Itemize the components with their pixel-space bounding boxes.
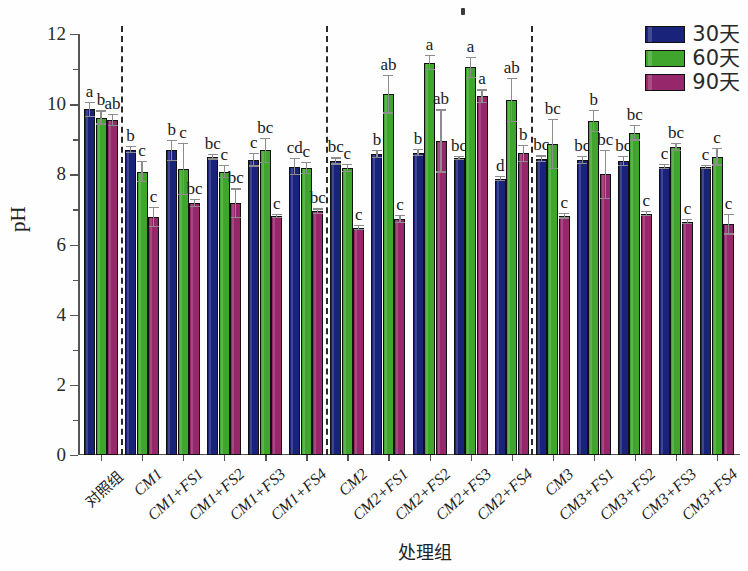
bar-group: babc bbox=[371, 34, 405, 455]
bar-30天-CM2+FS3[interactable] bbox=[454, 158, 465, 455]
bar-30天-CM2+FS2[interactable] bbox=[413, 153, 424, 455]
y-tick-0 bbox=[70, 455, 78, 456]
bar-60天-对照组[interactable] bbox=[96, 118, 107, 456]
bar-60天-CM3+FS4[interactable] bbox=[712, 157, 723, 455]
bar-60天-CM1+FS1[interactable] bbox=[178, 169, 189, 455]
bar-30天-CM1+FS2[interactable] bbox=[207, 157, 218, 455]
bar-60天-CM2+FS4[interactable] bbox=[506, 100, 517, 455]
bar-group: bcbc bbox=[166, 34, 200, 455]
bar-group: cbcc bbox=[248, 34, 282, 455]
bar-60天-CM3+FS2[interactable] bbox=[629, 133, 640, 455]
bar-30天-CM1+FS3[interactable] bbox=[248, 160, 259, 455]
error-bar bbox=[112, 114, 113, 127]
error-bar bbox=[399, 215, 400, 223]
bar-60天-CM2+FS2[interactable] bbox=[424, 63, 435, 455]
bar-60天-CM3+FS1[interactable] bbox=[588, 121, 599, 455]
error-bar bbox=[130, 146, 131, 153]
error-cap-top bbox=[383, 75, 393, 76]
bar-30天-CM3+FS2[interactable] bbox=[618, 161, 629, 455]
bar-90天-CM3+FS4[interactable] bbox=[723, 224, 734, 455]
bar-90天-CM3+FS2[interactable] bbox=[641, 214, 652, 455]
error-cap-top bbox=[208, 154, 218, 155]
legend-label: 90天 bbox=[692, 72, 740, 93]
bar-60天-CM2+FS3[interactable] bbox=[465, 67, 476, 455]
error-bar bbox=[705, 165, 706, 169]
error-cap-top bbox=[342, 164, 352, 165]
significance-label: c bbox=[661, 145, 669, 162]
bar-90天-CM1+FS3[interactable] bbox=[271, 216, 282, 455]
bar-30天-对照组[interactable] bbox=[84, 109, 95, 455]
bar-30天-CM1[interactable] bbox=[125, 150, 136, 455]
legend-item-60天[interactable]: 60天 bbox=[645, 48, 740, 69]
significance-label: bc bbox=[187, 180, 203, 197]
error-cap-top bbox=[518, 145, 528, 146]
error-cap-bottom bbox=[600, 198, 610, 199]
error-bar bbox=[646, 211, 647, 217]
bar-90天-CM3+FS3[interactable] bbox=[682, 222, 693, 455]
bar-60天-CM1+FS3[interactable] bbox=[260, 150, 271, 455]
bar-60天-CM2+FS1[interactable] bbox=[383, 94, 394, 455]
bar-30天-CM3+FS3[interactable] bbox=[659, 167, 670, 455]
significance-label: bc bbox=[205, 135, 221, 152]
error-cap-bottom bbox=[383, 112, 393, 113]
bar-60天-CM3[interactable] bbox=[547, 144, 558, 455]
significance-label: c bbox=[713, 129, 721, 146]
bar-90天-CM2+FS2[interactable] bbox=[436, 141, 447, 455]
error-cap-top bbox=[548, 119, 558, 120]
significance-label: a bbox=[467, 38, 475, 55]
bar-90天-CM1[interactable] bbox=[148, 217, 159, 455]
x-tick bbox=[430, 455, 431, 461]
error-bar bbox=[440, 109, 441, 172]
bar-60天-CM1+FS2[interactable] bbox=[219, 172, 230, 455]
bar-90天-CM1+FS4[interactable] bbox=[312, 211, 323, 455]
y-tick-label-12: 12 bbox=[32, 24, 66, 43]
bar-60天-CM1[interactable] bbox=[137, 172, 148, 455]
bar-30天-CM2[interactable] bbox=[330, 161, 341, 455]
bar-30天-CM1+FS4[interactable] bbox=[289, 167, 300, 455]
bar-90天-对照组[interactable] bbox=[107, 120, 118, 455]
x-tick bbox=[512, 455, 513, 461]
bar-60天-CM3+FS3[interactable] bbox=[670, 147, 681, 455]
error-cap-top bbox=[372, 150, 382, 151]
bar-30天-CM2+FS4[interactable] bbox=[495, 179, 506, 455]
significance-label: c bbox=[702, 146, 710, 163]
bar-90天-CM3[interactable] bbox=[559, 216, 570, 455]
bar-90天-CM2+FS4[interactable] bbox=[518, 153, 529, 455]
error-cap-bottom bbox=[313, 213, 323, 214]
error-cap-top bbox=[577, 156, 587, 157]
bar-90天-CM2+FS3[interactable] bbox=[477, 96, 488, 455]
bar-90天-CM3+FS1[interactable] bbox=[600, 174, 611, 455]
bar-90天-CM1+FS1[interactable] bbox=[189, 203, 200, 455]
bar-group: abab bbox=[84, 34, 118, 455]
error-cap-bottom bbox=[231, 217, 241, 218]
significance-label: b bbox=[126, 127, 135, 144]
error-cap-top bbox=[600, 150, 610, 151]
error-bar bbox=[358, 225, 359, 231]
bar-30天-CM2+FS1[interactable] bbox=[371, 154, 382, 455]
error-cap-bottom bbox=[659, 168, 669, 169]
bar-90天-CM2[interactable] bbox=[353, 228, 364, 455]
x-axis-title: 处理组 bbox=[398, 538, 452, 564]
error-cap-bottom bbox=[354, 229, 364, 230]
error-bar bbox=[100, 110, 101, 124]
significance-label: ab bbox=[104, 95, 120, 112]
error-cap-bottom bbox=[671, 150, 681, 151]
y-tick-label-2: 2 bbox=[32, 375, 66, 394]
bar-30天-CM3[interactable] bbox=[536, 159, 547, 455]
bar-60天-CM2[interactable] bbox=[342, 168, 353, 455]
error-cap-top bbox=[701, 165, 711, 166]
legend-item-90天[interactable]: 90天 bbox=[645, 72, 740, 93]
error-bar bbox=[235, 188, 236, 217]
error-cap-bottom bbox=[413, 155, 423, 156]
y-tick-label-10: 10 bbox=[32, 94, 66, 113]
error-bar bbox=[541, 155, 542, 162]
bar-90天-CM1+FS2[interactable] bbox=[230, 203, 241, 455]
bar-60天-CM1+FS4[interactable] bbox=[301, 168, 312, 455]
bar-30天-CM1+FS1[interactable] bbox=[166, 150, 177, 455]
error-bar bbox=[153, 207, 154, 227]
bar-30天-CM3+FS1[interactable] bbox=[577, 160, 588, 455]
legend-item-30天[interactable]: 30天 bbox=[645, 24, 740, 45]
bar-90天-CM2+FS1[interactable] bbox=[394, 219, 405, 455]
bar-30天-CM3+FS4[interactable] bbox=[700, 167, 711, 455]
significance-label: b bbox=[590, 91, 599, 108]
